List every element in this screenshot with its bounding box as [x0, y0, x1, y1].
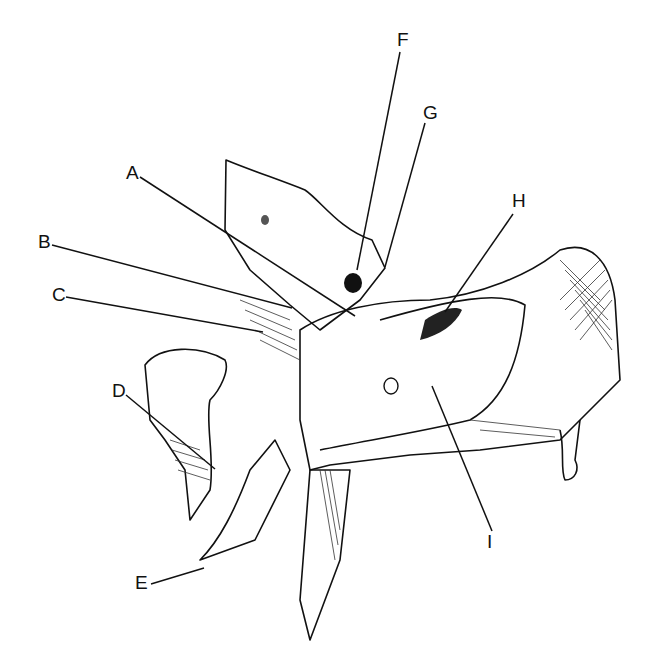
- label-I: I: [487, 532, 492, 551]
- foramen-marker: [344, 273, 362, 293]
- bone-illustration: [0, 0, 661, 665]
- leader-line-C: [66, 297, 263, 332]
- leader-line-D: [126, 395, 215, 469]
- leader-line-A: [140, 177, 355, 316]
- leader-line-E: [151, 568, 204, 584]
- leader-line-H: [445, 214, 513, 312]
- label-E: E: [135, 573, 148, 592]
- label-F: F: [397, 30, 409, 49]
- leader-line-I: [432, 386, 492, 531]
- leader-line-B: [52, 245, 292, 308]
- diagram-canvas: A B C D E F G H I: [0, 0, 661, 665]
- label-B: B: [38, 232, 51, 251]
- label-H: H: [512, 191, 526, 210]
- label-D: D: [112, 381, 126, 400]
- label-C: C: [52, 285, 66, 304]
- leader-line-G: [385, 123, 425, 267]
- label-G: G: [423, 103, 438, 122]
- label-A: A: [126, 163, 139, 182]
